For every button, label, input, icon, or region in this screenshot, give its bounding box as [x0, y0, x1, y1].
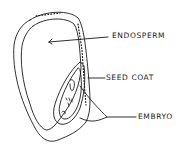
label-endosperm: ENDOSPERM — [112, 31, 165, 40]
label-seed-coat: SEED COAT — [106, 73, 154, 82]
seed-diagram — [0, 0, 193, 161]
seed-coat-outer — [14, 12, 90, 141]
seed-coat-inner — [21, 19, 81, 130]
label-embryo: EMBRYO — [138, 112, 173, 121]
